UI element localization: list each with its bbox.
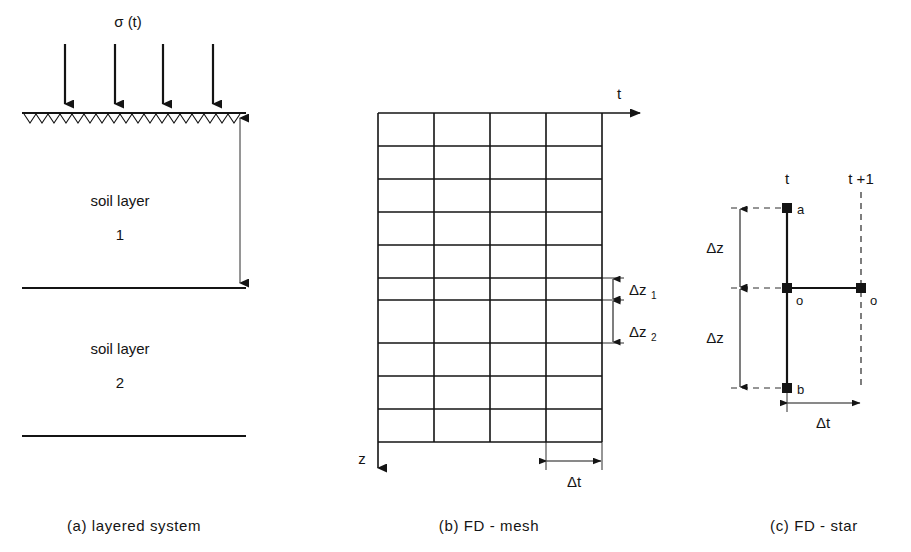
panel-c-caption: (c) FD - star — [770, 517, 858, 534]
layer2-index-label: 2 — [116, 374, 124, 391]
figure-svg: σ (t) soil layer 1 soil — [0, 0, 911, 552]
dt-label-mesh: Δt — [567, 473, 582, 490]
dz2-dimension-group: Δz 2 — [602, 301, 657, 343]
star-node-o-center-label: o — [796, 293, 803, 308]
dz-lower-label: Δz — [706, 329, 724, 346]
figure-canvas: σ (t) soil layer 1 soil — [0, 0, 911, 552]
panel-fd-star: t t +1 a o o b — [706, 170, 877, 534]
dt-dimension-group-mesh: Δt — [546, 442, 602, 490]
star-dz-extension-lines — [731, 208, 782, 388]
dz1-dimension-group: Δz 1 — [602, 278, 657, 301]
star-node-b-label: b — [797, 382, 804, 397]
z-axis-label: z — [358, 450, 366, 467]
dz2-label: Δz — [629, 323, 647, 340]
star-node-a — [782, 203, 792, 213]
panel-a-caption: (a) layered system — [67, 517, 201, 534]
star-node-o-right — [856, 283, 866, 293]
load-arrow-group — [65, 44, 213, 104]
layer1-name-label: soil layer — [90, 192, 149, 209]
t-axis-label: t — [617, 85, 622, 102]
dz1-label: Δz — [629, 281, 647, 298]
ground-hatching — [24, 114, 240, 123]
layer1-index-label: 1 — [116, 226, 124, 243]
star-node-a-label: a — [797, 202, 805, 217]
star-dz-lower-group: Δz — [706, 289, 740, 387]
star-node-o-right-label: o — [870, 293, 877, 308]
load-symbol-label: σ (t) — [114, 13, 142, 30]
star-column-t-plus-1-label: t +1 — [848, 170, 873, 187]
panel-layered-system: σ (t) soil layer 1 soil — [22, 13, 246, 534]
star-dz-upper-group: Δz — [706, 209, 740, 287]
layer2-name-label: soil layer — [90, 340, 149, 357]
star-dt-label: Δt — [816, 414, 831, 431]
star-node-o-center — [782, 283, 792, 293]
star-column-t-label: t — [785, 170, 790, 187]
panel-fd-mesh: t z — [358, 85, 657, 534]
dz-upper-label: Δz — [706, 239, 724, 256]
panel-b-caption: (b) FD - mesh — [439, 517, 539, 534]
dz1-subscript: 1 — [651, 290, 657, 301]
dz2-subscript: 2 — [651, 332, 657, 343]
